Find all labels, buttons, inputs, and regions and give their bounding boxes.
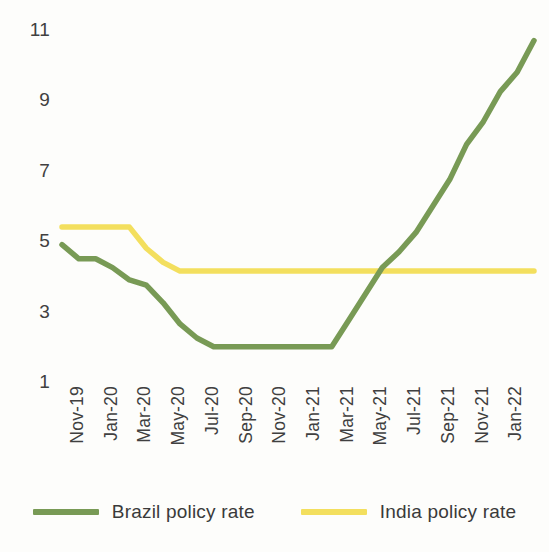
x-tick-label: May-21 — [372, 386, 390, 446]
legend-item-brazil: Brazil policy rate — [33, 502, 255, 522]
policy-rate-line-chart: 1357911 Nov-19Jan-20Mar-20May-20Jul-20Se… — [0, 0, 549, 552]
series-line-india — [62, 227, 534, 271]
legend-swatch-india-icon — [301, 509, 367, 515]
x-tick-label: Sep-20 — [238, 386, 256, 444]
x-tick-label: Nov-19 — [69, 386, 87, 444]
y-tick-label: 11 — [30, 20, 50, 39]
x-tick-label: Nov-21 — [474, 386, 492, 444]
legend-swatch-brazil-icon — [33, 509, 99, 515]
chart-legend: Brazil policy rate India policy rate — [0, 492, 549, 532]
x-tick-label: Jan-21 — [305, 386, 323, 441]
x-tick-label: Mar-21 — [339, 386, 357, 443]
y-tick-label: 9 — [39, 90, 50, 109]
legend-label-brazil: Brazil policy rate — [112, 502, 255, 522]
x-tick-label: May-20 — [170, 386, 188, 446]
plot-svg — [62, 30, 534, 382]
legend-label-india: India policy rate — [380, 502, 516, 522]
x-tick-label: Jul-20 — [204, 386, 222, 435]
x-tick-label: Sep-21 — [440, 386, 458, 444]
y-tick-label: 3 — [39, 302, 50, 321]
plot-area — [62, 30, 534, 382]
y-tick-label: 1 — [39, 372, 50, 391]
x-tick-label: Jan-20 — [103, 386, 121, 441]
series-line-brazil — [62, 41, 534, 347]
x-tick-label: Jul-21 — [406, 386, 424, 435]
x-tick-label: Nov-20 — [271, 386, 289, 444]
y-tick-label: 7 — [39, 161, 50, 180]
legend-item-india: India policy rate — [301, 502, 516, 522]
y-axis: 1357911 — [0, 0, 62, 412]
x-tick-label: Jan-22 — [507, 386, 525, 441]
y-tick-label: 5 — [39, 231, 50, 250]
x-axis: Nov-19Jan-20Mar-20May-20Jul-20Sep-20Nov-… — [62, 386, 534, 486]
x-tick-label: Mar-20 — [136, 386, 154, 443]
